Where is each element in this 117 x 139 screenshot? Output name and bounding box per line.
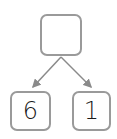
arrow-to-left [33, 57, 61, 87]
right-value: 1 [84, 97, 99, 125]
left-child-box: 6 [10, 91, 51, 131]
top-box[interactable] [40, 14, 82, 56]
right-child-box: 1 [72, 91, 111, 131]
left-value: 6 [23, 97, 38, 125]
arrow-to-right [61, 57, 91, 87]
